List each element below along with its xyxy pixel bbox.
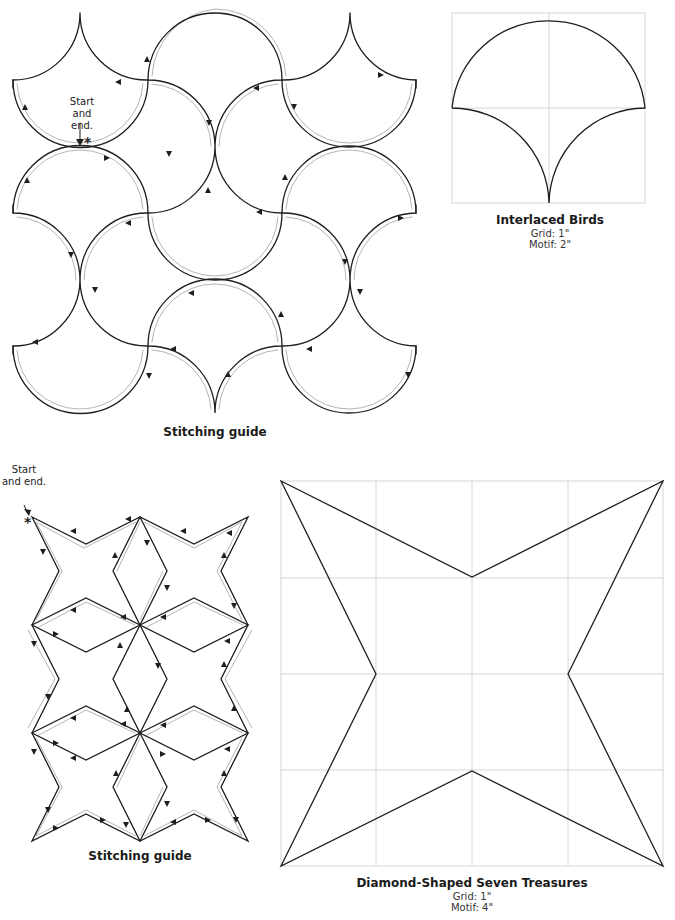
arrow-icon (188, 290, 194, 296)
diamond-treasures-motif (281, 481, 663, 866)
arrow-icon (32, 339, 38, 345)
motif-lines (13, 13, 416, 414)
arrow-icon (117, 642, 123, 648)
motif-title: Diamond-Shaped Seven Treasures (352, 877, 592, 891)
arrow-icon (164, 801, 170, 807)
arrow-icon (398, 215, 404, 221)
diamond-outline (32, 598, 140, 652)
arrow-icon (92, 287, 98, 293)
diamond-outline (113, 733, 167, 841)
caption-title: Stitching guide (130, 426, 300, 440)
arrow-icon (31, 749, 37, 755)
diamond-outline (140, 706, 248, 760)
arrow-icon (125, 516, 131, 522)
bird-outline (13, 280, 148, 414)
diamond-stitching-caption: Stitching guide (60, 850, 220, 864)
arrow-icon (160, 104, 163, 110)
arrow-icon (278, 311, 284, 317)
arrow-icon (221, 770, 227, 776)
and-end-label: and end. (2, 476, 46, 487)
arrow-icon (256, 209, 262, 215)
arrow-icon (123, 822, 129, 828)
stitch-path-offset (28, 522, 252, 836)
grid-lines (452, 13, 645, 203)
interlaced-stitching-guide (13, 9, 416, 414)
arrow-icon (164, 585, 170, 591)
direction-arrows (31, 516, 239, 831)
interlaced-birds-motif (452, 13, 645, 203)
motif-size: Motif: 4" (352, 902, 592, 914)
grid-lines (281, 481, 663, 866)
arrow-icon (166, 151, 172, 157)
and-end-label: and end. (71, 108, 93, 131)
bird-outline (282, 146, 416, 280)
bird-outline (13, 146, 148, 280)
outer-outline (32, 517, 248, 841)
caption-title: Stitching guide (60, 850, 220, 864)
interlaced-stitching-caption: Stitching guide (130, 426, 300, 440)
arrow-icon (112, 552, 118, 558)
arrow-icon (144, 56, 150, 62)
bird-outline (282, 280, 416, 413)
motif-size: Motif: 2" (460, 239, 640, 251)
arrow-icon (226, 530, 232, 536)
arrow-icon (24, 177, 30, 183)
stitch-path-offset (17, 9, 412, 409)
start-marker-asterisk: * (84, 134, 91, 151)
arrow-icon (224, 746, 230, 752)
grid-size: Grid: 1" (352, 891, 592, 903)
motif-title: Interlaced Birds (460, 214, 640, 228)
arrow-icon (70, 607, 76, 613)
arrow-icon (70, 528, 76, 534)
arrow-icon (306, 346, 312, 352)
diamond-outline (32, 706, 140, 760)
arrow-icon (221, 661, 227, 667)
arrow-icon (282, 174, 288, 180)
arrow-icon (357, 289, 363, 295)
diamond-stitching-guide (24, 505, 252, 841)
arrow-icon (125, 220, 131, 226)
arrow-icon (180, 528, 186, 534)
start-end-label: Start and end. (0, 464, 48, 488)
arrow-icon (53, 631, 59, 637)
bird-outline (282, 13, 416, 147)
arrow-icon (205, 187, 211, 193)
arrow-icon (40, 549, 46, 555)
interlaced-birds-caption: Interlaced Birds Grid: 1" Motif: 2" (460, 214, 640, 251)
start-end-label: Start and end. (62, 96, 102, 132)
grid-size: Grid: 1" (460, 228, 640, 240)
arrow-icon (68, 252, 74, 258)
arrow-icon (124, 706, 130, 712)
start-label: Start (70, 96, 94, 107)
arrow-icon (160, 751, 166, 757)
arrow-icon (144, 540, 150, 546)
arrow-icon (113, 770, 119, 776)
arrow-icon (70, 715, 76, 721)
arrow-icon (70, 755, 76, 761)
arrow-icon (378, 72, 384, 78)
arrow-icon (225, 371, 231, 377)
diamond-outline (113, 517, 167, 625)
start-label: Start (12, 464, 36, 475)
start-marker-asterisk: * (24, 514, 31, 531)
arrow-icon (115, 79, 121, 85)
bird-outline (148, 279, 282, 413)
diamond-treasures-caption: Diamond-Shaped Seven Treasures Grid: 1" … (352, 877, 592, 914)
bird-outline (148, 13, 282, 146)
arrow-icon (146, 373, 152, 379)
pattern-artwork (0, 0, 675, 920)
diamond-outline (140, 598, 248, 652)
arrow-icon (224, 638, 230, 644)
diamond-outline (113, 625, 167, 733)
motif-lines (32, 517, 248, 841)
